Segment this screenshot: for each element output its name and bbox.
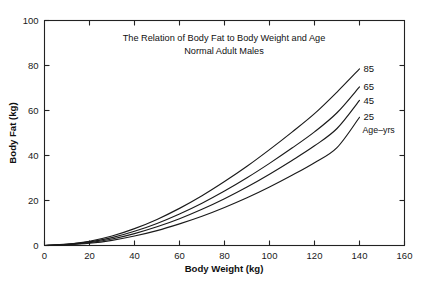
y-tick-label-40: 40 <box>28 150 39 161</box>
x-tick-label-60: 60 <box>174 250 185 261</box>
x-tick-label-160: 160 <box>397 250 413 261</box>
x-tick-label-40: 40 <box>129 250 140 261</box>
y-axis-title: Body Fat (kg) <box>7 102 18 163</box>
x-tick-label-140: 140 <box>352 250 368 261</box>
legend-note-age-units: Age–yrs <box>363 125 396 135</box>
series-label-85: 85 <box>364 63 375 74</box>
series-label-65: 65 <box>364 81 375 92</box>
x-tick-label-120: 120 <box>307 250 323 261</box>
chart-canvas: 020406080100120140160 020406080100 85654… <box>0 0 423 284</box>
x-tick-label-80: 80 <box>219 250 230 261</box>
x-axis-title: Body Weight (kg) <box>185 263 264 274</box>
series-label-45: 45 <box>364 95 375 106</box>
y-tick-label-80: 80 <box>28 60 39 71</box>
chart-title: The Relation of Body Fat to Body Weight … <box>123 33 326 43</box>
y-tick-label-60: 60 <box>28 105 39 116</box>
y-tick-label-100: 100 <box>23 15 39 26</box>
x-tick-label-20: 20 <box>84 250 95 261</box>
y-tick-label-0: 0 <box>33 240 38 251</box>
chart-container: 020406080100120140160 020406080100 85654… <box>0 0 423 284</box>
y-tick-label-20: 20 <box>28 195 39 206</box>
x-tick-label-100: 100 <box>262 250 278 261</box>
series-label-25: 25 <box>364 111 375 122</box>
x-tick-label-0: 0 <box>42 250 47 261</box>
chart-subtitle: Normal Adult Males <box>184 46 264 56</box>
